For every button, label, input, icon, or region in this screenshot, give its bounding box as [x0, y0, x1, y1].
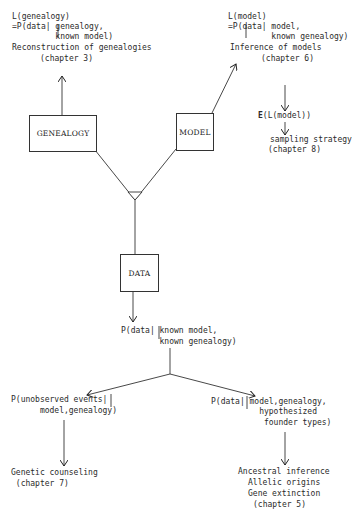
- genealogy-node-label: GENEALOGY: [37, 129, 90, 138]
- founder-types-formula-cont: hypothesized: [211, 407, 317, 417]
- model-chapter: (chapter 6): [261, 54, 314, 64]
- arrow-fork-right: [170, 374, 255, 396]
- data-node: DATA: [120, 254, 159, 292]
- connector-lines: [0, 0, 363, 520]
- genealogy-likelihood-formula: =P(data| genealogy,: [12, 22, 104, 32]
- genealogy-likelihood-formula-cont: known model): [12, 32, 113, 42]
- model-likelihood-label: L(model): [228, 12, 267, 22]
- genetic-counseling-title: Genetic counseling: [11, 468, 98, 478]
- sampling-chapter: (chapter 8): [268, 145, 321, 155]
- founder-types-formula: P(data| model,genealogy,: [211, 397, 327, 407]
- unobserved-events-formula-cont: model,genealogy): [11, 406, 117, 416]
- model-likelihood-formula: =P(data| model,: [228, 22, 300, 32]
- genealogy-chapter: (chapter 3): [40, 54, 93, 64]
- unobserved-events-formula: P(unobserved events|: [11, 395, 107, 405]
- model-inference-title: Inference of models: [230, 43, 322, 53]
- genealogy-reconstruction-title: Reconstruction of genealogies: [12, 43, 152, 53]
- model-node: MODEL: [176, 113, 214, 151]
- sampling-strategy-title: sampling strategy: [270, 135, 352, 145]
- arrow-fork-left: [87, 374, 170, 395]
- data-node-label: DATA: [129, 269, 151, 278]
- genealogy-likelihood-label: L(genealogy): [12, 12, 70, 22]
- diagram-canvas: GENEALOGY MODEL DATA L(genealogy) =P(dat…: [0, 0, 363, 520]
- junction-triangle: [128, 192, 142, 200]
- expectation-label: E(L(model)): [258, 111, 311, 121]
- founder-types-formula-end: founder types): [211, 418, 331, 428]
- arrow-model-up: [212, 64, 236, 113]
- gene-extinction-title: Gene extinction: [248, 489, 320, 499]
- data-likelihood-formula-cont: known genealogy): [121, 337, 237, 347]
- ancestral-inference-title: Ancestral inference: [238, 467, 330, 477]
- genealogy-node: GENEALOGY: [29, 115, 97, 152]
- data-likelihood-formula: P(data| known model,: [121, 326, 217, 336]
- expectation-argument: (L(model)): [263, 111, 311, 120]
- ancestral-chapter: (chapter 5): [253, 500, 306, 510]
- allelic-origins-title: Allelic origins: [248, 478, 320, 488]
- model-likelihood-formula-cont: known genealogy): [228, 32, 348, 42]
- genetic-counseling-chapter: (chapter 7): [11, 479, 69, 489]
- model-node-label: MODEL: [179, 128, 210, 137]
